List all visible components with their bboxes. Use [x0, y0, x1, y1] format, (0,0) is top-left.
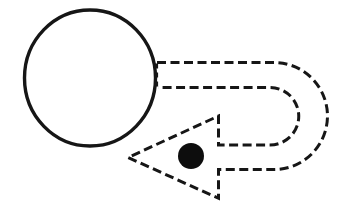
diagram-canvas — [0, 0, 339, 214]
diagram-stage — [0, 0, 339, 214]
arrow-dot — [178, 143, 204, 169]
circle-shape — [25, 10, 156, 146]
